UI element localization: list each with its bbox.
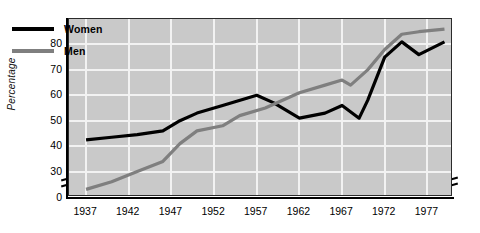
series-line-women: [86, 42, 444, 140]
legend-swatch-women: [12, 27, 54, 31]
legend-label-women: Women: [64, 23, 103, 35]
y-tick-label: 50: [22, 115, 62, 126]
x-axis-line: [66, 197, 454, 199]
y-tick-label: 0: [22, 192, 62, 203]
legend-item-women: Women: [12, 18, 103, 40]
data-series-layer: [69, 19, 453, 197]
legend-swatch-men: [12, 49, 54, 53]
legend: Women Men: [12, 18, 103, 62]
line-chart: Percentage 0304050607080 Women Men 19371…: [0, 0, 480, 233]
y-tick-label: 60: [22, 89, 62, 100]
legend-item-men: Men: [12, 40, 103, 62]
legend-label-men: Men: [64, 45, 86, 57]
y-tick-label: 30: [22, 166, 62, 177]
plot-area: [68, 18, 452, 196]
x-tick-label: 1977: [396, 205, 456, 217]
y-tick-label: 40: [22, 140, 62, 151]
x-axis-tick-labels: 193719421947195219571962196719721977: [0, 205, 480, 225]
y-tick-label: 70: [22, 64, 62, 75]
